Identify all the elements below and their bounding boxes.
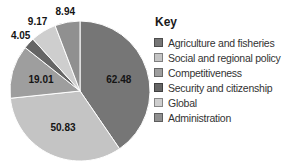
legend-label: Competitiveness: [168, 67, 242, 79]
pie-value-label-security-and-citizenship: 4.05: [11, 30, 31, 41]
legend-item-competitiveness: Competitiveness: [154, 65, 290, 80]
pie-chart-figure: 62.4850.8319.014.059.178.94 Key Agricult…: [0, 0, 291, 168]
chart-legend: Key Agriculture and fisheries Social and…: [154, 16, 290, 125]
legend-item-administration: Administration: [154, 110, 290, 125]
legend-swatch-icon: [154, 38, 163, 47]
legend-title: Key: [155, 16, 290, 29]
legend-item-social-and-regional-policy: Social and regional policy: [154, 50, 290, 65]
legend-label: Global: [168, 97, 197, 109]
legend-label: Social and regional policy: [168, 52, 281, 64]
pie-value-label-competitiveness: 19.01: [28, 74, 53, 85]
legend-swatch-icon: [154, 83, 163, 92]
pie-value-label-global: 9.17: [28, 16, 48, 27]
legend-swatch-icon: [154, 68, 163, 77]
pie-value-label-administration: 8.94: [56, 6, 76, 17]
legend-item-global: Global: [154, 95, 290, 110]
pie-value-label-agriculture-and-fisheries: 62.48: [106, 74, 131, 85]
legend-item-agriculture-and-fisheries: Agriculture and fisheries: [154, 35, 290, 50]
legend-swatch-icon: [154, 53, 163, 62]
legend-swatch-icon: [154, 98, 163, 107]
legend-item-security-and-citizenship: Security and citizenship: [154, 80, 290, 95]
pie-value-label-social-and-regional-policy: 50.83: [50, 122, 75, 133]
legend-swatch-icon: [154, 113, 163, 122]
legend-label: Administration: [168, 112, 231, 124]
legend-label: Agriculture and fisheries: [168, 37, 274, 49]
legend-label: Security and citizenship: [168, 82, 272, 94]
